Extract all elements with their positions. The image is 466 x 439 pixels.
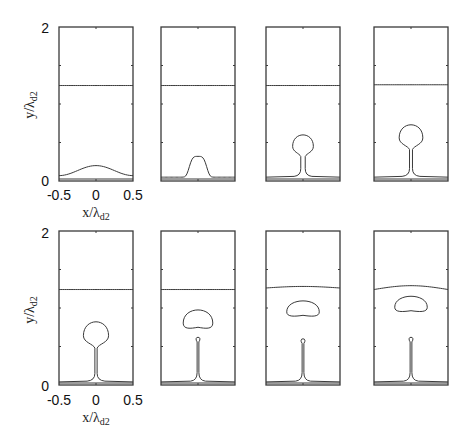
panel-5 — [59, 231, 133, 385]
panel-frame — [59, 27, 133, 181]
ylabel-bottom-main: y/λ — [22, 306, 37, 324]
panel-4 — [374, 27, 448, 181]
xlabel-bottom-main: x/λ — [82, 410, 100, 425]
xlabel-bottom-sub: d2 — [100, 416, 110, 427]
xlabel-top: x/λd2 — [82, 205, 110, 222]
detached-bubble — [183, 310, 213, 328]
ytick-label-top-2: 2 — [41, 20, 49, 36]
ylabel-bottom-sub: d2 — [28, 296, 39, 306]
xtick-label-top-zero: 0 — [92, 187, 100, 203]
panel-7 — [266, 231, 340, 385]
xlabel-top-sub: d2 — [100, 211, 110, 222]
lower-interface-line — [59, 166, 133, 176]
panel-3 — [266, 27, 340, 181]
panel-frame — [161, 27, 235, 181]
ylabel-top-main: y/λ — [22, 101, 37, 119]
panel-frame — [374, 27, 448, 181]
xlabel-top-main: x/λ — [82, 205, 100, 220]
xtick-label-bottom-pos: 0.5 — [123, 392, 143, 408]
lower-interface-line — [59, 322, 133, 382]
figure: 2 0 -0.5 0 0.5 x/λd2 y/λd2 2 0 -0.5 0 0.… — [0, 0, 466, 439]
panel-8 — [374, 231, 448, 385]
xtick-label-top-pos: 0.5 — [123, 187, 143, 203]
lower-interface-line — [374, 125, 448, 177]
xtick-label-bottom-zero: 0 — [92, 392, 100, 408]
upper-interface-line — [374, 286, 448, 290]
xtick-label-bottom-neg: -0.5 — [47, 392, 71, 408]
lower-interface-line — [374, 337, 448, 382]
panel-frame — [161, 231, 235, 385]
lower-interface-line — [161, 337, 235, 382]
panel-1 — [59, 27, 133, 181]
xlabel-bottom: x/λd2 — [82, 410, 110, 427]
panel-frame — [266, 231, 340, 385]
ytick-label-bottom-2: 2 — [41, 225, 49, 241]
lower-interface-line — [266, 135, 340, 177]
detached-bubble — [287, 301, 320, 316]
panels-group — [59, 27, 448, 385]
ylabel-bottom: y/λd2 — [22, 296, 39, 324]
xtick-label-top-neg: -0.5 — [47, 187, 71, 203]
upper-interface-line — [266, 286, 340, 288]
detached-bubble — [395, 296, 428, 311]
ylabel-top: y/λd2 — [22, 91, 39, 119]
ylabel-top-sub: d2 — [28, 91, 39, 101]
lower-interface-line — [266, 339, 340, 382]
panel-frame — [374, 231, 448, 385]
panel-6 — [161, 231, 235, 385]
lower-interface-line — [161, 156, 235, 177]
panel-2 — [161, 27, 235, 181]
panel-frame — [266, 27, 340, 181]
panel-frame — [59, 231, 133, 385]
